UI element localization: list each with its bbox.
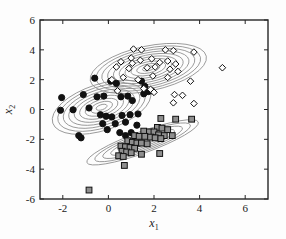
data-point xyxy=(117,130,123,136)
y-tick-label: 0 xyxy=(30,104,36,116)
data-point xyxy=(135,111,141,117)
data-point xyxy=(169,133,175,139)
data-point xyxy=(109,114,115,120)
y-tick-label: 4 xyxy=(30,44,36,56)
data-point xyxy=(101,93,107,99)
x-tick-label: 2 xyxy=(151,202,157,214)
y-tick-label: 6 xyxy=(30,14,36,26)
x-axis-title: x1 xyxy=(148,216,158,232)
x-tick-label: 4 xyxy=(197,202,203,214)
data-point xyxy=(86,187,92,193)
data-point xyxy=(78,135,84,141)
scatter-contour-plot: -20246-6-4-20246x1x2 xyxy=(0,0,286,239)
y-tick-label: -4 xyxy=(26,163,36,175)
data-point xyxy=(70,107,76,113)
data-point xyxy=(142,133,148,139)
data-point xyxy=(173,116,179,122)
y-tick-label: 2 xyxy=(30,74,36,86)
x-tick-label: 0 xyxy=(106,202,112,214)
data-point xyxy=(129,97,135,103)
y-axis-title: x2 xyxy=(1,105,17,115)
data-point xyxy=(159,125,165,131)
data-point xyxy=(158,116,164,122)
data-point xyxy=(139,140,145,146)
x-tick-label: -2 xyxy=(58,202,67,214)
x-tick-label: 6 xyxy=(242,202,248,214)
data-point xyxy=(121,163,127,169)
data-point xyxy=(128,150,134,156)
y-tick-label: -6 xyxy=(26,193,36,205)
data-point xyxy=(104,127,110,133)
data-point xyxy=(94,94,100,100)
y-tick-label: -2 xyxy=(26,133,35,145)
data-point xyxy=(92,75,98,81)
data-point xyxy=(119,112,125,118)
data-point xyxy=(158,136,164,142)
data-point xyxy=(144,141,150,147)
data-point xyxy=(57,107,63,113)
data-point xyxy=(127,112,133,118)
data-point xyxy=(118,94,124,100)
data-point xyxy=(152,135,158,141)
data-point xyxy=(80,91,86,97)
data-point xyxy=(112,121,118,127)
data-point xyxy=(103,113,109,119)
data-point xyxy=(134,122,140,128)
data-point xyxy=(136,133,142,139)
data-point xyxy=(86,105,92,111)
figure-container: -20246-6-4-20246x1x2 xyxy=(0,0,286,239)
data-point xyxy=(100,121,106,127)
data-point xyxy=(59,94,65,100)
data-point xyxy=(165,127,171,133)
data-point xyxy=(122,119,128,125)
data-point xyxy=(120,154,126,160)
data-point xyxy=(189,116,195,122)
data-point xyxy=(157,151,163,157)
data-point xyxy=(139,151,145,157)
